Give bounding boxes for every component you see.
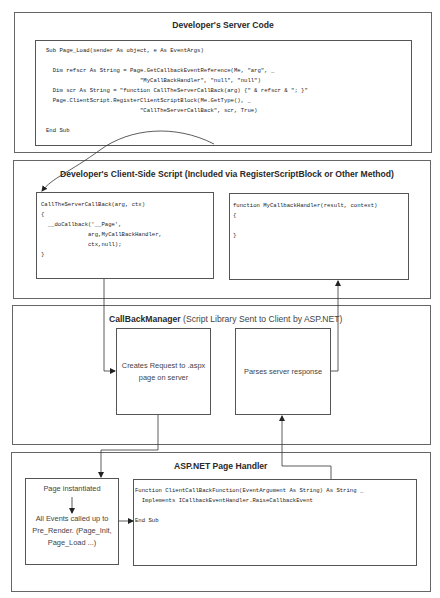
client-script-title: Developer's Client-Side Script (Included… [60, 169, 394, 179]
callback-manager-section [12, 305, 431, 445]
page-events-label: All Events called up to Pre_Render. (Pag… [30, 513, 114, 549]
callback-manager-title: CallBackManager (Script Library Sent to … [109, 314, 342, 324]
page-instantiated-label: Page instantiated [25, 483, 119, 495]
create-request-label: Creates Request to .aspx page on server [116, 360, 211, 384]
callback-function-code: Function ClientCallBackFunction(EventArg… [135, 486, 363, 526]
page-handler-title: ASP.NET Page Handler [174, 461, 267, 471]
server-code-title: Developer's Server Code [14, 20, 432, 30]
callback-handler-code: function MyCallbackHandler(result, conte… [233, 201, 377, 241]
call-server-code: CallTheServerCallBack(arg, ctx) { __doCa… [41, 200, 162, 260]
parse-response-label: Parses server response [235, 366, 331, 378]
server-code-text: Sub Page_Load(sender As object, e As Eve… [46, 46, 308, 136]
